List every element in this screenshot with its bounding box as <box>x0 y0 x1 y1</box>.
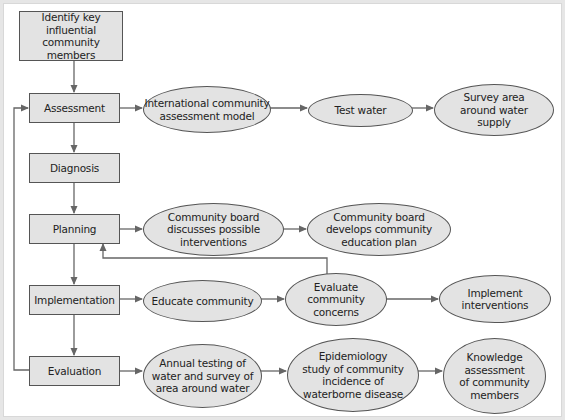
node-label: International community assessment model <box>145 97 270 122</box>
activity-test-water: Test water <box>308 94 413 127</box>
activity-educate-community: Educate community <box>143 280 262 322</box>
phase-identify-members: Identify key influential community membe… <box>19 11 123 61</box>
activity-survey-area: Survey area around water supply <box>434 84 554 136</box>
node-label: Planning <box>53 223 97 236</box>
activity-epidemiology-study: Epidemiology study of community incidenc… <box>287 338 419 412</box>
node-label: Implementation <box>34 294 115 307</box>
phase-diagnosis: Diagnosis <box>29 153 120 183</box>
phase-implementation: Implementation <box>29 285 120 315</box>
node-label: Test water <box>335 104 387 117</box>
phase-evaluation: Evaluation <box>29 356 120 386</box>
node-label: Knowledge assessment of community member… <box>459 351 529 401</box>
node-label: Diagnosis <box>50 162 99 175</box>
activity-knowledge-assessment: Knowledge assessment of community member… <box>443 338 546 414</box>
node-label: Annual testing of water and survey of ar… <box>152 357 253 395</box>
node-label: Survey area around water supply <box>460 91 528 129</box>
activity-intl-assessment-model: International community assessment model <box>143 86 271 133</box>
node-label: Epidemiology study of community incidenc… <box>302 350 404 400</box>
phase-planning: Planning <box>29 214 120 244</box>
activity-board-develops: Community board develops community educa… <box>307 203 451 256</box>
activity-board-discusses: Community board discusses possible inter… <box>143 203 284 256</box>
node-label: Assessment <box>44 102 105 115</box>
arrow-evaluation-assessment <box>14 108 29 370</box>
activity-annual-testing: Annual testing of water and survey of ar… <box>143 344 262 408</box>
node-label: Evaluate community concerns <box>286 281 386 319</box>
node-label: Evaluation <box>48 365 101 378</box>
node-label: Community board discusses possible inter… <box>167 211 260 249</box>
node-label: Identify key influential community membe… <box>20 11 122 61</box>
activity-evaluate-concerns: Evaluate community concerns <box>285 273 387 326</box>
node-label: Community board develops community educa… <box>326 211 432 249</box>
diagram-canvas: Identify key influential community membe… <box>3 3 562 417</box>
phase-assessment: Assessment <box>29 93 120 123</box>
activity-implement-interventions: Implement interventions <box>439 275 551 323</box>
node-label: Implement interventions <box>462 287 529 312</box>
node-label: Educate community <box>152 295 254 308</box>
